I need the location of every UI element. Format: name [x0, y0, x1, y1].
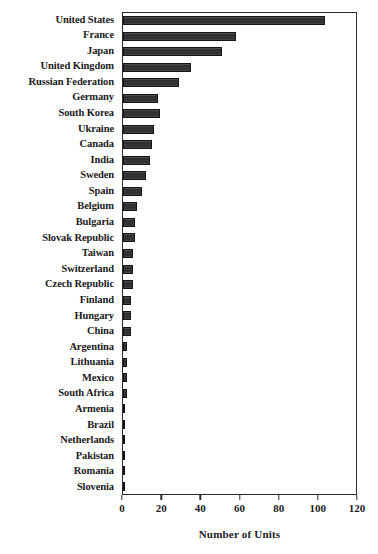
bar: [123, 125, 154, 134]
bar-row: [123, 339, 356, 355]
category-label: Bulgaria: [0, 215, 118, 231]
category-label: United Kingdom: [0, 59, 118, 75]
bar: [123, 466, 125, 475]
bar: [123, 202, 137, 211]
category-label: Hungary: [0, 308, 118, 324]
bar-row: [123, 153, 356, 169]
bar: [123, 265, 133, 274]
category-label: France: [0, 28, 118, 44]
bar: [123, 451, 125, 460]
bar-row: [123, 60, 356, 76]
category-label: Lithuania: [0, 355, 118, 371]
bar: [123, 109, 160, 118]
bar: [123, 218, 135, 227]
bar-row: [123, 292, 356, 308]
category-label: China: [0, 324, 118, 340]
bar-row: [123, 354, 356, 370]
category-label: Armenia: [0, 401, 118, 417]
bar-row: [123, 184, 356, 200]
bar: [123, 389, 127, 398]
bar: [123, 342, 127, 351]
bar: [123, 32, 236, 41]
category-label: Mexico: [0, 370, 118, 386]
bar: [123, 435, 125, 444]
bar-row: [123, 385, 356, 401]
bar-row: [123, 370, 356, 386]
bar-row: [123, 416, 356, 432]
bar-row: [123, 91, 356, 107]
x-axis-tick-label: 40: [195, 502, 206, 514]
category-label: Russian Federation: [0, 74, 118, 90]
bar: [123, 187, 142, 196]
bar-row: [123, 308, 356, 324]
x-axis-tick-label: 0: [119, 502, 125, 514]
category-label: South Africa: [0, 386, 118, 402]
category-label: Czech Republic: [0, 277, 118, 293]
category-label: Switzerland: [0, 261, 118, 277]
bar: [123, 171, 146, 180]
category-label: Romania: [0, 464, 118, 480]
plot-area: [122, 12, 357, 495]
bar: [123, 63, 191, 72]
bar: [123, 420, 125, 429]
bar-row: [123, 323, 356, 339]
category-label: Spain: [0, 183, 118, 199]
category-label: Japan: [0, 43, 118, 59]
bar-row: [123, 106, 356, 122]
category-label: South Korea: [0, 105, 118, 121]
category-label: Slovenia: [0, 479, 118, 495]
bar: [123, 327, 131, 336]
bar: [123, 296, 131, 305]
category-label: Germany: [0, 90, 118, 106]
bar-row: [123, 13, 356, 29]
category-label: Slovak Republic: [0, 230, 118, 246]
x-axis-tick-label: 100: [310, 502, 327, 514]
bar: [123, 404, 125, 413]
category-label: Pakistan: [0, 448, 118, 464]
bar-row: [123, 199, 356, 215]
bar-row: [123, 122, 356, 138]
x-axis-tick-label: 80: [273, 502, 284, 514]
bar-row: [123, 401, 356, 417]
x-axis-tick: [317, 495, 318, 500]
category-label: Sweden: [0, 168, 118, 184]
x-axis-tick: [160, 495, 161, 500]
category-label: Taiwan: [0, 246, 118, 262]
bar-row: [123, 261, 356, 277]
bar: [123, 358, 127, 367]
bar: [123, 311, 131, 320]
x-axis-tick-label: 60: [234, 502, 245, 514]
bar: [123, 16, 325, 25]
x-axis-tick: [356, 495, 357, 500]
bar-row: [123, 44, 356, 60]
bar-row: [123, 447, 356, 463]
category-label: Ukraine: [0, 121, 118, 137]
x-axis-tick: [121, 495, 122, 500]
bar-row: [123, 246, 356, 262]
bar-row: [123, 215, 356, 231]
category-label: Brazil: [0, 417, 118, 433]
bar-chart: United StatesFranceJapanUnited KingdomRu…: [0, 0, 378, 554]
bar-row: [123, 230, 356, 246]
bar-row: [123, 478, 356, 494]
category-label: Canada: [0, 137, 118, 153]
x-axis-title: Number of Units: [122, 528, 357, 540]
bar: [123, 47, 222, 56]
category-label: Finland: [0, 292, 118, 308]
bar-row: [123, 137, 356, 153]
bar-series: [123, 13, 356, 494]
bar: [123, 78, 179, 87]
bar: [123, 373, 127, 382]
x-axis: 020406080100120: [122, 495, 357, 496]
bar-row: [123, 277, 356, 293]
bar: [123, 482, 125, 491]
x-axis-tick: [278, 495, 279, 500]
category-label: United States: [0, 12, 118, 28]
bar: [123, 233, 135, 242]
x-axis-tick: [239, 495, 240, 500]
bar-row: [123, 168, 356, 184]
x-axis-tick-label: 120: [349, 502, 366, 514]
bar: [123, 94, 158, 103]
bar-row: [123, 432, 356, 448]
bar: [123, 249, 133, 258]
